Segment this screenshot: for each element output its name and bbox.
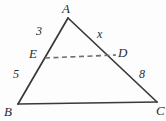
segment-AB <box>18 18 68 104</box>
length-label-dc: 8 <box>139 68 145 80</box>
length-label-ad: x <box>97 28 102 40</box>
vertex-label-a: A <box>62 2 70 15</box>
triangle-diagram-svg <box>0 0 166 121</box>
length-label-eb: 5 <box>13 68 19 80</box>
vertex-label-c: C <box>156 104 165 117</box>
vertex-label-d: D <box>118 46 127 59</box>
segment-ED-dashed <box>45 55 116 58</box>
vertex-label-e: E <box>29 47 37 60</box>
vertex-label-b: B <box>4 105 12 118</box>
segment-BC <box>18 102 157 104</box>
geometry-figure: A B C D E 3 5 x 8 <box>0 0 166 121</box>
segment-AC <box>68 18 157 102</box>
length-label-ae: 3 <box>36 25 42 37</box>
